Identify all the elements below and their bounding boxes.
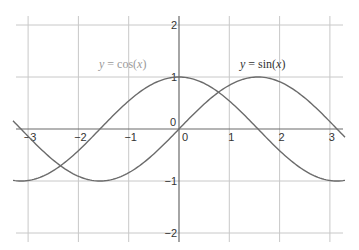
x-tick-label: 1 [228, 131, 234, 143]
curve-labels: y = cos(x) y = sin(x) [98, 57, 285, 71]
origin-x-label: 0 [182, 131, 188, 143]
y-tick-label: −1 [164, 175, 177, 187]
x-tick-label: −1 [124, 131, 137, 143]
sin-label: y = sin(x) [239, 57, 285, 71]
x-tick-label: 2 [279, 131, 285, 143]
x-tick-label: 3 [329, 131, 335, 143]
x-tick-label: −2 [74, 131, 87, 143]
y-tick-label: 2 [171, 19, 177, 31]
y-tick-label: −2 [164, 227, 177, 239]
x-tick-label: −3 [24, 131, 37, 143]
cos-label: y = cos(x) [98, 57, 146, 71]
function-plot: −3−2−1123−2−11200 y = cos(x) y = sin(x) [0, 0, 359, 250]
origin-y-label: 0 [170, 116, 176, 128]
